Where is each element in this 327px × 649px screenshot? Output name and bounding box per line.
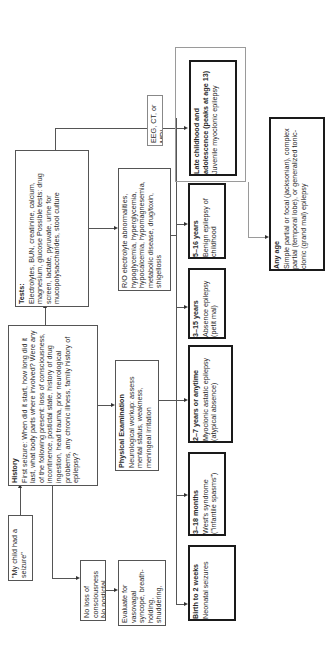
any-age-body: Simple partial or focal (jacksonian), co… [283,123,309,269]
connector-tests-imaging [55,128,56,150]
age-body: West's syndrome ("infantile spasms") [202,458,219,534]
age-box-birth-2-weeks: Birth to 2 weeks Neonatal seizures [188,545,236,621]
history-title: History [11,330,20,483]
connector-to-anyage-v2 [245,47,246,173]
history-node: History First seizure: When did it start… [8,325,98,486]
age-title: Late childhood and adolescence (peaks at… [193,66,210,174]
connector-history-noloss-h [52,578,78,579]
age-body: Myoclonic astatic epilepsy (atypical abs… [202,351,219,441]
imaging-text: EEG, CT, or MRI [150,100,163,143]
age-box-3-15-years: 3–15 years Absence epilepsy (petit mal) [188,268,226,339]
age-body: Benign epilepsy of childhood [202,189,219,257]
tests-title: Tests: [18,155,27,304]
tests-node: Tests: Electrolytes, BUN, creatinine, ca… [15,150,89,307]
any-age-node: Any age Simple partial or focal (jackson… [269,117,325,271]
connector-imaging-h [55,128,148,129]
connector-exam-trunk [158,400,176,401]
start-node: "My child had a seizure" [8,515,33,581]
connector-tests-ruleout [88,228,116,229]
age-box-late-childhood: Late childhood and adolescence (peaks at… [189,60,237,176]
age-body: Neonatal seizures [202,551,211,619]
age-box-5-16-years: 5–16 years Benign epilepsy of childhood [188,183,226,259]
rule-out-text: R/O electrolyte abnormalities, hypoglyce… [121,173,164,288]
tests-body: Electrolytes, BUN, creatinine, calcium, … [28,155,62,304]
no-loss-text: No loss of consciousness No postictal st… [83,565,106,618]
age-title: 3–18 months [192,458,201,534]
physical-exam-title: Physical Examination [118,365,127,468]
connector-history-noloss [52,485,53,579]
age-trunk-line [176,118,177,605]
age-box-2-7-years: 2–7 years or anytime Myoclonic astatic e… [188,345,233,443]
start-text: "My child had a seizure" [11,520,28,578]
physical-exam-body: Neurological workup: assess mental statu… [128,365,154,468]
evaluate-node: Evaluate for vasovagal syncope, breath-h… [118,560,166,626]
physical-exam-node: Physical Examination Neurological workup… [115,360,159,471]
evaluate-text: Evaluate for vasovagal syncope, breath-h… [121,565,166,623]
connector-anyage-trunk [248,182,249,238]
connector-start-history [20,487,21,515]
age-title: 2–7 years or anytime [192,351,201,441]
age-title: 3–15 years [192,274,201,337]
age-body: Absence epilepsy (petit mal) [202,274,219,337]
no-loss-node: No loss of consciousness No postictal st… [80,560,106,621]
age-title: Birth to 2 weeks [192,551,201,619]
any-age-title: Any age [273,123,282,269]
age-title: 5–16 years [192,189,201,257]
age-body: Juvenile myoclonic epilepsy [211,66,220,174]
connector-history-tests [45,307,46,325]
rule-out-node: R/O electrolyte abnormalities, hypoglyce… [118,168,171,291]
imaging-node: EEG, CT, or MRI [147,95,163,146]
age-box-3-18-months: 3–18 months West's syndrome ("infantile … [188,452,226,536]
history-body: First seizure: When did it start, how lo… [21,330,81,483]
